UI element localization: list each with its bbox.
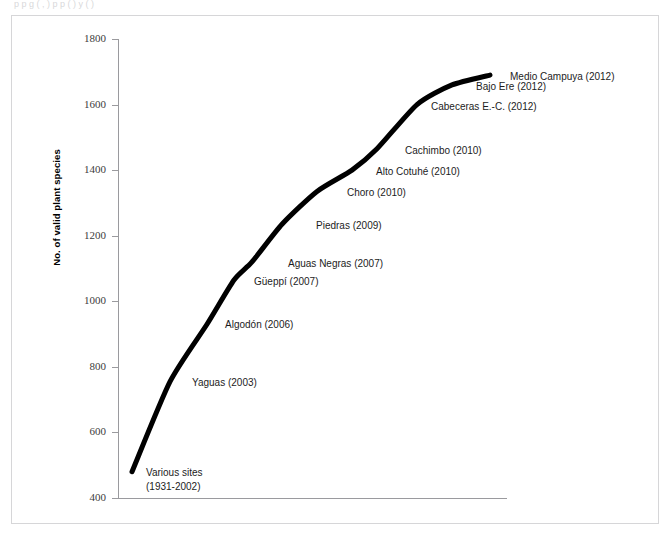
data-point-label-line: Yaguas (2003)	[192, 376, 257, 389]
data-point-label: Algodón (2006)	[225, 318, 293, 331]
y-axis-tick	[112, 39, 118, 40]
data-point-label-line: (1931-2002)	[146, 480, 203, 494]
data-point-label: Yaguas (2003)	[192, 376, 257, 389]
data-point-label-line: Choro (2010)	[347, 186, 406, 199]
figure-frame: No. of valid plant species 4006008001000…	[11, 15, 659, 524]
data-point-label: Choro (2010)	[347, 186, 406, 199]
curve-path	[132, 75, 490, 472]
y-axis-tick	[112, 170, 118, 171]
data-point-label: Piedras (2009)	[316, 219, 382, 232]
data-point-label-line: Piedras (2009)	[316, 219, 382, 232]
y-axis-tick	[112, 301, 118, 302]
y-axis-tick-label: 1200	[60, 229, 106, 241]
data-point-label-line: Alto Cotuhé (2010)	[376, 165, 460, 178]
data-point-label-line: Medio Campuya (2012)	[510, 70, 615, 83]
y-axis-tick-label: 800	[60, 360, 106, 372]
clipped-caption-strip: p p g ( , ) p p ( ) y ( )	[14, 0, 654, 9]
data-point-label: Aguas Negras (2007)	[288, 257, 383, 270]
data-point-label: Alto Cotuhé (2010)	[376, 165, 460, 178]
y-axis-tick-label: 600	[60, 425, 106, 437]
data-point-label-line: Aguas Negras (2007)	[288, 257, 383, 270]
y-axis-tick	[112, 105, 118, 106]
data-point-label: Cabeceras E.-C. (2012)	[431, 100, 537, 113]
data-point-label-line: Güeppí (2007)	[254, 275, 319, 288]
data-point-label-line: Algodón (2006)	[225, 318, 293, 331]
y-axis-tick-label: 400	[60, 491, 106, 503]
y-axis-tick-label: 1000	[60, 294, 106, 306]
y-axis-tick	[112, 498, 118, 499]
y-axis-title: No. of valid plant species	[51, 128, 62, 288]
species-accumulation-curve	[12, 16, 660, 525]
data-point-label: Güeppí (2007)	[254, 275, 319, 288]
y-axis-tick	[112, 432, 118, 433]
data-point-label-line: Cabeceras E.-C. (2012)	[431, 100, 537, 113]
data-point-label: Medio Campuya (2012)	[510, 70, 615, 83]
figure-page: p p g ( , ) p p ( ) y ( ) No. of valid p…	[0, 0, 670, 538]
y-axis-tick	[112, 236, 118, 237]
y-axis-tick-label: 1400	[60, 163, 106, 175]
data-point-label: Various sites(1931-2002)	[146, 466, 203, 494]
data-point-label-line: Cachimbo (2010)	[405, 144, 482, 157]
data-point-label: Cachimbo (2010)	[405, 144, 482, 157]
x-axis-line	[118, 498, 507, 499]
plot-area: No. of valid plant species 4006008001000…	[12, 16, 660, 525]
y-axis-tick-label: 1800	[60, 32, 106, 44]
y-axis-tick	[112, 367, 118, 368]
y-axis-line	[118, 39, 119, 499]
data-point-label-line: Various sites	[146, 466, 203, 480]
y-axis-tick-label: 1600	[60, 98, 106, 110]
